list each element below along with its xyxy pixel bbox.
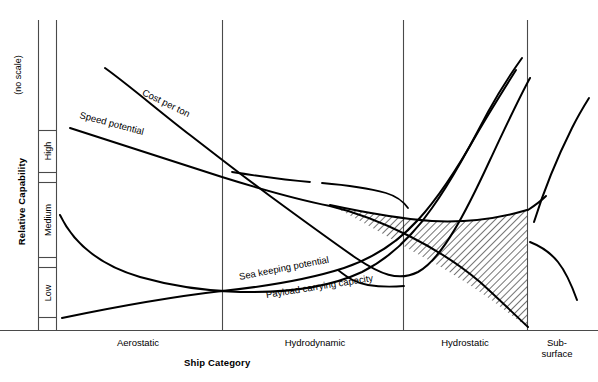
y-axis-note: (no scale) bbox=[13, 45, 23, 105]
uncertainty-band-group bbox=[330, 205, 527, 327]
chart-plot-area bbox=[0, 0, 598, 382]
x-category-label-aerostatic: Aerostatic bbox=[88, 337, 188, 348]
y-tick-label-high: High bbox=[43, 131, 53, 171]
x-category-label-subsurface-line2: surface bbox=[528, 348, 586, 359]
x-category-label-hydrodynamic: Hydrodynamic bbox=[262, 337, 368, 348]
chart-figure: Relative Capability (no scale) High Medi… bbox=[0, 0, 598, 382]
curve-payload-carrying-capacity bbox=[62, 70, 516, 318]
curve-subsurface-segment-3 bbox=[528, 196, 546, 210]
y-axis-title: Relative Capability bbox=[16, 150, 27, 254]
curve-subsurface-segment-1 bbox=[534, 98, 589, 222]
y-tick-label-low: Low bbox=[43, 274, 53, 312]
x-axis-title: Ship Category bbox=[184, 357, 250, 368]
uncertainty-band-hatched-region bbox=[330, 205, 527, 327]
x-category-label-subsurface-line1: Sub- bbox=[528, 337, 586, 348]
curve-subsurface-segment-2 bbox=[530, 242, 577, 300]
y-tick-label-medium: Medium bbox=[43, 193, 53, 247]
curve-band-upper-segment-b bbox=[322, 183, 408, 208]
x-category-label-hydrostatic: Hydrostatic bbox=[412, 337, 518, 348]
